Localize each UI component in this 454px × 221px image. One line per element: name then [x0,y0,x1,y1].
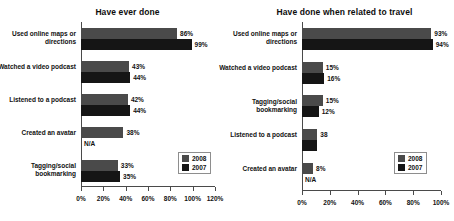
x-axis-tick [302,191,303,195]
bar-2008 [302,129,317,140]
category-label: Watched a video podcast [219,64,297,72]
bar-2008 [302,62,323,73]
legend-right: 2008 2007 [394,152,427,174]
bar-2007 [81,105,130,116]
chart-title-right: Have done when related to travel [227,7,454,17]
category-label: Listened to a podcast [0,96,76,104]
bar-value-label: 8% [316,163,325,174]
x-axis-tick [126,187,127,191]
bar-2007 [302,39,433,50]
bar-value-label: 93% [434,28,447,39]
bar-value-label: 99% [195,39,208,50]
bar-value-label: 12% [322,106,335,117]
x-axis-tick-label: 80% [407,199,420,206]
category-label: Created an avatar [219,165,297,173]
bar-2007 [302,140,317,151]
bar-value-label: 16% [327,73,340,84]
x-axis-tick [215,187,216,191]
bar-group: 43%44% [81,55,215,88]
legend-swatch-2007-icon [182,164,189,171]
bar-value-label: 35% [123,171,136,182]
x-axis-tick [441,191,442,195]
bar-2008 [302,28,431,39]
x-axis-tick-label: 20% [97,195,110,202]
x-axis-tick-label: 60% [141,195,154,202]
x-axis-tick-label: 40% [351,199,364,206]
bar-group: 42%44% [81,88,215,121]
legend-left: 2008 2007 [178,152,211,174]
x-axis-tick [170,187,171,191]
x-axis-tick-label: 100% [433,199,450,206]
legend-label-2007: 2007 [408,164,422,171]
bar-2007 [302,106,319,117]
x-axis-tick-label: 80% [164,195,177,202]
bar-value-label: 43% [132,61,145,72]
x-axis-tick [358,191,359,195]
x-axis-tick [193,187,194,191]
legend-label-2008: 2008 [408,155,422,162]
bar-2008 [81,160,118,171]
bar-value-label: N/A [84,138,95,149]
two-chart-figure: Have ever done 0%20%40%60%80%100%120%86%… [0,0,454,221]
legend-label-2008: 2008 [192,155,206,162]
x-axis-tick-label: 0% [297,199,306,206]
x-axis-tick [385,191,386,195]
legend-item-2008: 2008 [182,155,206,162]
bar-2008 [302,95,323,106]
chart-title-left: Have ever done [0,7,227,17]
category-label: Created an avatar [0,129,76,137]
category-label: Tagging/social bookmarking [219,98,297,114]
category-label: Used online maps or directions [219,30,297,46]
x-axis-tick [413,191,414,195]
bar-group: 15%16% [302,56,441,90]
bar-2007 [81,39,192,50]
x-axis-tick-label: 40% [119,195,132,202]
category-label: Listened to a podcast [219,131,297,139]
x-axis-tick [103,187,104,191]
bar-2008 [81,127,123,138]
x-axis-tick [81,187,82,191]
x-axis-tick-label: 20% [323,199,336,206]
x-axis-tick-label: 100% [184,195,201,202]
bar-value-label: 44% [133,105,146,116]
bar-2008 [302,163,313,174]
bar-value-label: 15% [326,62,339,73]
bar-2007 [81,72,130,83]
legend-label-2007: 2007 [192,164,206,171]
x-axis-tick [148,187,149,191]
bar-value-label: 15% [326,95,339,106]
bar-2007 [81,171,120,182]
legend-swatch-2008-icon [182,155,189,162]
bar-value-label: 38% [126,127,139,138]
x-axis-tick [330,191,331,195]
legend-item-2007: 2007 [182,164,206,171]
bar-value-label: 38 [320,129,327,140]
bar-value-label: 86% [180,28,193,39]
x-axis-tick-label: 120% [207,195,224,202]
bar-group: 86%99% [81,22,215,55]
legend-swatch-2007-icon [398,164,405,171]
bar-2008 [81,28,177,39]
bar-2008 [81,94,128,105]
legend-item-2007: 2007 [398,164,422,171]
bar-2008 [81,61,129,72]
bar-group: 38%N/A [81,121,215,154]
bar-value-label: 94% [436,39,449,50]
bar-value-label: 44% [133,72,146,83]
bar-2007 [302,73,324,84]
bar-value-label: 33% [121,160,134,171]
legend-swatch-2008-icon [398,155,405,162]
legend-item-2008: 2008 [398,155,422,162]
category-label: Watched a video podcast [0,63,76,71]
x-axis-tick-label: 60% [379,199,392,206]
bar-value-label: N/A [305,174,316,185]
bar-group: 93%94% [302,22,441,56]
chart-panel-have-ever-done: Have ever done 0%20%40%60%80%100%120%86%… [0,0,227,221]
category-label: Tagging/social bookmarking [0,162,76,178]
x-axis-tick-label: 0% [76,195,85,202]
bar-value-label: 42% [131,94,144,105]
bar-group: 15%12% [302,90,441,124]
category-label: Used online maps or directions [0,30,76,46]
chart-panel-have-done-travel: Have done when related to travel 0%20%40… [227,0,454,221]
